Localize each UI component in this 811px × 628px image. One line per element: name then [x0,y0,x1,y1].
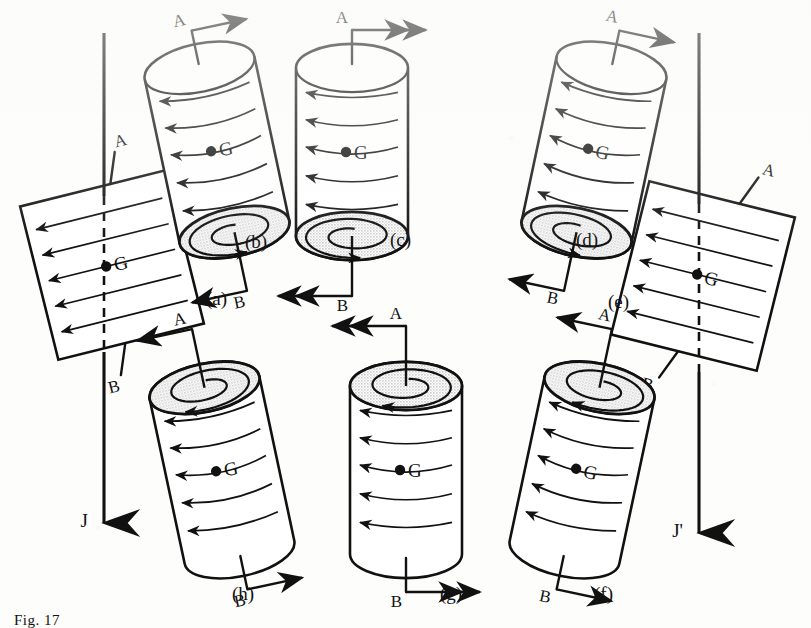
figure-caption: Fig. 17 [14,612,60,628]
panel-e-vector-a-label: A [760,160,777,182]
panel-d-vector-b-label: B [545,288,560,309]
panel-a-vector-b-stem [114,343,133,375]
panel-e-vector-a-stem [740,175,759,207]
panel-a-vector-a-label: A [112,130,129,152]
panel-d-vector-a-label: A [604,6,621,27]
panel-f-vector-a-label: A [597,304,614,325]
panel-c-vector-b-label: B [337,296,348,315]
panel-g-vector-a-label: A [390,304,403,323]
panel-c: GBA [278,8,426,315]
panel-f: GAB [498,296,671,620]
diagram-canvas: GAB(a)GBA(b)GBA(c)GBA(d)GAB(e)GAB(f)GAB(… [0,0,811,628]
axis-j-prime-label: J' [672,520,683,541]
axis-j-label: J [81,510,88,531]
panel-g: GAB [332,304,480,611]
panel-c-vector-a-label: A [336,8,349,27]
panel-b-caption: (b) [245,231,267,253]
panel-h-caption: (h) [232,583,254,605]
panel-c-caption: (c) [390,229,411,251]
panel-b-vector-a-label: A [171,10,188,31]
panel-a-vector-b-label: B [106,376,122,397]
panel-d-vector-b-stem [564,258,571,291]
panel-h-vector-a-stem [192,329,199,362]
figure-root: GAB(a)GBA(b)GBA(c)GBA(d)GAB(e)GAB(f)GAB(… [0,0,811,628]
panel-c-center-of-mass-label: G [354,142,368,163]
panel-f-vector-b-label: B [538,586,553,607]
panel-h-vector-b-shaft [247,578,302,590]
panel-g-center-of-mass-dot [395,465,405,475]
panel-a-vector-a-stem [103,152,122,184]
panel-h: GAB [133,296,306,620]
panel-b-vector-b-label: B [232,292,247,313]
panel-g-vector-b-label: B [391,592,402,611]
panel-g-center-of-mass-label: G [408,460,422,481]
panel-c-center-of-mass-dot [341,147,351,157]
panel-b-vector-a-shaft [192,19,247,31]
panel-e-vector-b-stem [659,348,678,380]
panel-b-vector-b-stem [240,258,247,291]
panel-g-caption: (g) [440,583,462,605]
panel-d-caption: (d) [576,229,598,251]
panel-d-vector-a-shaft [619,31,674,43]
panel-f-vector-a-stem [605,329,612,362]
panel-f-caption: (f) [594,583,613,605]
